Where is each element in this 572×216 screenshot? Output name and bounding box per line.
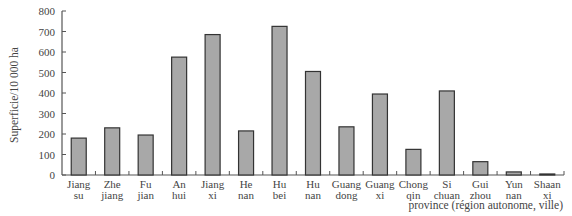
bar	[138, 135, 153, 175]
bar	[406, 149, 421, 175]
bar	[205, 35, 220, 175]
x-category-label: xi	[208, 189, 217, 201]
x-category-label: jian	[136, 189, 154, 201]
bar-chart: 0100200300400500600700800 JiangsuZhejian…	[0, 0, 572, 216]
bar	[239, 131, 254, 175]
x-category-label: dong	[335, 189, 358, 201]
x-category-label: xi	[376, 189, 385, 201]
x-category-label: jiang	[100, 189, 123, 201]
bar	[71, 138, 86, 175]
bar	[473, 162, 488, 175]
y-tick-label: 0	[50, 169, 56, 181]
y-axis-title: Superficie/10 000 ha	[8, 47, 21, 143]
x-category-label: nan	[238, 189, 254, 201]
y-tick-label: 700	[39, 26, 56, 38]
bars	[71, 26, 555, 175]
bar	[306, 71, 321, 175]
x-category-label: hui	[172, 189, 186, 201]
y-tick-label: 400	[39, 87, 56, 99]
bar	[339, 127, 354, 175]
bar	[105, 128, 120, 175]
bar	[372, 94, 387, 175]
x-axis-title: province (région autonome, ville)	[408, 199, 563, 212]
x-category-label: su	[74, 189, 84, 201]
y-tick-label: 300	[39, 108, 56, 120]
y-tick-label: 500	[39, 67, 56, 79]
category-labels: JiangsuZhejiangFujianAnhuiJiangxiHenanHu…	[67, 178, 561, 201]
y-tick-label: 200	[39, 128, 56, 140]
y-tick-label: 100	[39, 149, 56, 161]
bar	[506, 172, 521, 175]
bar	[439, 91, 454, 175]
x-category-label: nan	[305, 189, 321, 201]
bar	[172, 57, 187, 175]
bar	[272, 26, 287, 175]
y-axis: 0100200300400500600700800	[39, 5, 67, 181]
x-category-label: bei	[273, 189, 286, 201]
bar	[540, 174, 555, 175]
y-tick-label: 600	[39, 46, 56, 58]
y-tick-label: 800	[39, 5, 56, 17]
